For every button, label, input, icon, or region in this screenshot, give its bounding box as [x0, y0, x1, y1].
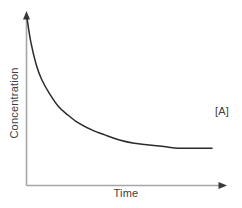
series-end-label: [A] [215, 106, 229, 117]
x-axis-label: Time [0, 188, 242, 199]
concentration-decay-curve [27, 18, 212, 148]
y-axis-label: Concentration [9, 67, 20, 138]
y-axis-label-container: Concentration [0, 55, 28, 150]
concentration-vs-time-figure: Concentration Time [A] [0, 0, 242, 208]
plot-canvas [0, 0, 242, 208]
